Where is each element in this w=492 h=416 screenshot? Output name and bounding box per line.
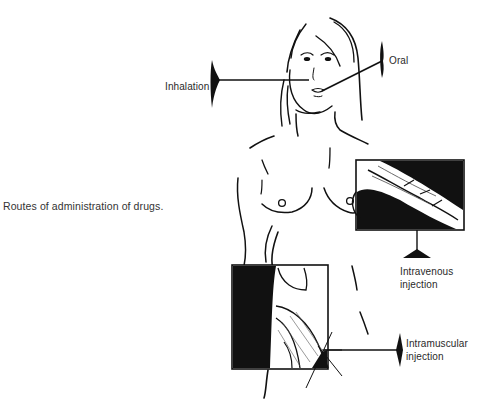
intramuscular-label: Intramuscular injection [406,337,468,363]
intravenous-inset [353,160,464,258]
intramuscular-inset [232,265,403,388]
oral-label: Oral [389,54,408,67]
intravenous-label: Intravenous injection [400,265,453,291]
intramuscular-label-line2: injection [406,350,468,363]
neck-shoulders [250,110,368,148]
inhalation-pointer [211,60,310,108]
intramuscular-label-line1: Intramuscular [406,337,468,350]
head-outline [281,18,362,126]
inhalation-label: Inhalation [165,80,209,93]
figure-caption: Routes of administration of drugs. [3,200,163,213]
intravenous-label-line2: injection [400,278,453,291]
face-features [301,53,334,97]
intravenous-label-line1: Intravenous [400,265,453,278]
